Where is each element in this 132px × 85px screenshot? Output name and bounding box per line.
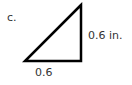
vertical-side-label: 0.6 in. xyxy=(88,30,123,41)
triangle-outline xyxy=(25,5,81,61)
horizontal-side-label: 0.6 xyxy=(35,67,53,78)
right-triangle xyxy=(0,0,132,85)
